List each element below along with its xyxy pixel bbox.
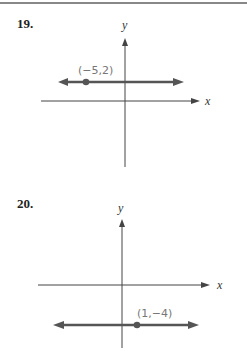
arrow-icon: [188, 321, 199, 329]
arrow-icon: [58, 78, 68, 86]
arrow-icon: [191, 98, 200, 104]
point-marker: [83, 79, 90, 86]
point-label: (1,−4): [137, 307, 172, 320]
arrow-icon: [122, 38, 128, 46]
graph-20: y x (1,−4): [0, 180, 247, 362]
graph-19: y x (−5,2): [0, 0, 247, 180]
y-axis-label: y: [121, 18, 128, 32]
arrow-icon: [53, 321, 64, 329]
y-axis-label: y: [117, 201, 124, 215]
point-label: (−5,2): [78, 64, 113, 77]
x-axis-label: x: [216, 278, 223, 292]
point-marker: [134, 322, 141, 329]
arrow-icon: [173, 78, 184, 86]
arrow-icon: [119, 219, 125, 227]
arrow-icon: [201, 282, 210, 288]
x-axis-label: x: [204, 94, 211, 108]
